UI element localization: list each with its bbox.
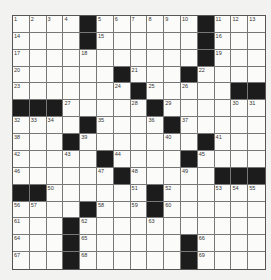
grid-cell[interactable] xyxy=(231,117,248,134)
grid-cell[interactable] xyxy=(47,151,64,168)
grid-cell[interactable] xyxy=(63,117,80,134)
grid-cell[interactable]: 54 xyxy=(231,185,248,202)
grid-cell[interactable] xyxy=(114,252,131,269)
grid-cell[interactable] xyxy=(231,33,248,50)
grid-cell[interactable] xyxy=(198,202,215,219)
grid-cell[interactable] xyxy=(164,50,181,67)
grid-cell[interactable] xyxy=(47,33,64,50)
grid-cell[interactable]: 38 xyxy=(13,134,30,151)
grid-cell[interactable]: 13 xyxy=(248,16,265,33)
grid-cell[interactable] xyxy=(181,50,198,67)
grid-cell[interactable]: 28 xyxy=(131,100,148,117)
grid-cell[interactable] xyxy=(231,202,248,219)
grid-cell[interactable]: 39 xyxy=(80,134,97,151)
grid-cell[interactable]: 17 xyxy=(13,50,30,67)
grid-cell[interactable]: 32 xyxy=(13,117,30,134)
grid-cell[interactable] xyxy=(215,252,232,269)
grid-cell[interactable] xyxy=(248,50,265,67)
grid-cell[interactable]: 36 xyxy=(147,117,164,134)
grid-cell[interactable] xyxy=(215,100,232,117)
grid-cell[interactable]: 2 xyxy=(30,16,47,33)
grid-cell[interactable] xyxy=(164,151,181,168)
grid-cell[interactable]: 22 xyxy=(198,67,215,84)
grid-cell[interactable] xyxy=(97,100,114,117)
grid-cell[interactable]: 65 xyxy=(80,235,97,252)
grid-cell[interactable] xyxy=(114,117,131,134)
grid-cell[interactable] xyxy=(63,83,80,100)
grid-cell[interactable] xyxy=(30,50,47,67)
grid-cell[interactable]: 24 xyxy=(114,83,131,100)
grid-cell[interactable] xyxy=(47,67,64,84)
grid-cell[interactable]: 58 xyxy=(97,202,114,219)
grid-cell[interactable] xyxy=(198,185,215,202)
grid-cell[interactable] xyxy=(248,117,265,134)
grid-cell[interactable] xyxy=(131,252,148,269)
grid-cell[interactable]: 26 xyxy=(181,83,198,100)
grid-cell[interactable] xyxy=(131,117,148,134)
grid-cell[interactable] xyxy=(181,218,198,235)
grid-cell[interactable]: 55 xyxy=(248,185,265,202)
grid-cell[interactable] xyxy=(47,83,64,100)
grid-cell[interactable] xyxy=(147,151,164,168)
grid-cell[interactable] xyxy=(231,235,248,252)
grid-cell[interactable]: 16 xyxy=(215,33,232,50)
grid-cell[interactable]: 56 xyxy=(13,202,30,219)
grid-cell[interactable]: 27 xyxy=(63,100,80,117)
grid-cell[interactable] xyxy=(164,252,181,269)
grid-cell[interactable] xyxy=(181,134,198,151)
grid-cell[interactable]: 10 xyxy=(181,16,198,33)
grid-cell[interactable]: 49 xyxy=(181,168,198,185)
grid-cell[interactable] xyxy=(131,151,148,168)
grid-cell[interactable]: 52 xyxy=(164,185,181,202)
grid-cell[interactable] xyxy=(47,202,64,219)
grid-cell[interactable]: 47 xyxy=(97,168,114,185)
grid-cell[interactable] xyxy=(47,252,64,269)
grid-cell[interactable] xyxy=(231,134,248,151)
grid-cell[interactable]: 3 xyxy=(47,16,64,33)
grid-cell[interactable]: 42 xyxy=(13,151,30,168)
grid-cell[interactable]: 67 xyxy=(13,252,30,269)
grid-cell[interactable] xyxy=(131,134,148,151)
grid-cell[interactable] xyxy=(80,168,97,185)
grid-cell[interactable]: 64 xyxy=(13,235,30,252)
grid-cell[interactable] xyxy=(231,252,248,269)
grid-cell[interactable] xyxy=(97,235,114,252)
grid-cell[interactable] xyxy=(147,252,164,269)
grid-cell[interactable]: 62 xyxy=(80,218,97,235)
grid-cell[interactable]: 33 xyxy=(30,117,47,134)
grid-cell[interactable] xyxy=(164,33,181,50)
grid-cell[interactable] xyxy=(97,252,114,269)
grid-cell[interactable] xyxy=(198,100,215,117)
grid-cell[interactable] xyxy=(80,100,97,117)
grid-cell[interactable] xyxy=(198,117,215,134)
grid-cell[interactable] xyxy=(80,185,97,202)
grid-cell[interactable] xyxy=(248,235,265,252)
grid-cell[interactable]: 44 xyxy=(114,151,131,168)
grid-cell[interactable] xyxy=(131,33,148,50)
grid-cell[interactable] xyxy=(63,202,80,219)
grid-cell[interactable] xyxy=(248,67,265,84)
grid-cell[interactable] xyxy=(63,67,80,84)
grid-cell[interactable]: 40 xyxy=(164,134,181,151)
grid-cell[interactable] xyxy=(147,134,164,151)
grid-cell[interactable] xyxy=(80,67,97,84)
grid-cell[interactable] xyxy=(164,67,181,84)
grid-cell[interactable] xyxy=(131,235,148,252)
grid-cell[interactable]: 35 xyxy=(97,117,114,134)
grid-cell[interactable] xyxy=(30,33,47,50)
grid-cell[interactable]: 50 xyxy=(47,185,64,202)
grid-cell[interactable] xyxy=(231,218,248,235)
grid-cell[interactable]: 46 xyxy=(13,168,30,185)
grid-cell[interactable] xyxy=(131,50,148,67)
grid-cell[interactable] xyxy=(164,218,181,235)
grid-cell[interactable] xyxy=(97,50,114,67)
grid-cell[interactable] xyxy=(231,50,248,67)
grid-cell[interactable] xyxy=(164,83,181,100)
grid-cell[interactable] xyxy=(147,33,164,50)
grid-cell[interactable] xyxy=(147,168,164,185)
grid-cell[interactable]: 12 xyxy=(231,16,248,33)
grid-cell[interactable] xyxy=(97,134,114,151)
grid-cell[interactable] xyxy=(80,151,97,168)
grid-cell[interactable]: 1 xyxy=(13,16,30,33)
grid-cell[interactable] xyxy=(215,151,232,168)
